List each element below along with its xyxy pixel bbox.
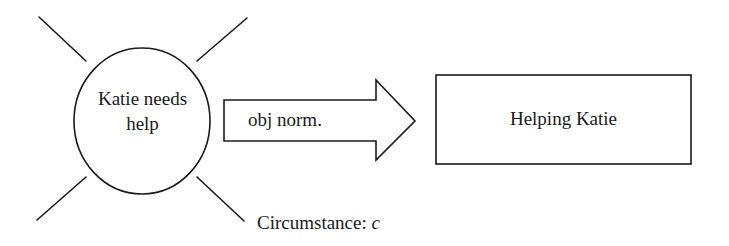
ray-lower-left (37, 177, 86, 220)
circumstance-text: Circumstance: (257, 212, 367, 233)
arrow-label: obj norm. (248, 108, 322, 132)
circle-label-line1: Katie needs (74, 86, 211, 111)
circumstance-label: Circumstance: c (257, 211, 380, 235)
circumstance-variable: c (372, 212, 380, 233)
ray-upper-right (197, 18, 247, 61)
box-label: Helping Katie (436, 107, 691, 131)
circle-label-line2: help (74, 111, 211, 136)
ray-upper-left (39, 17, 86, 61)
circle-label: Katie needs help (74, 86, 211, 136)
ray-lower-right (197, 177, 244, 221)
